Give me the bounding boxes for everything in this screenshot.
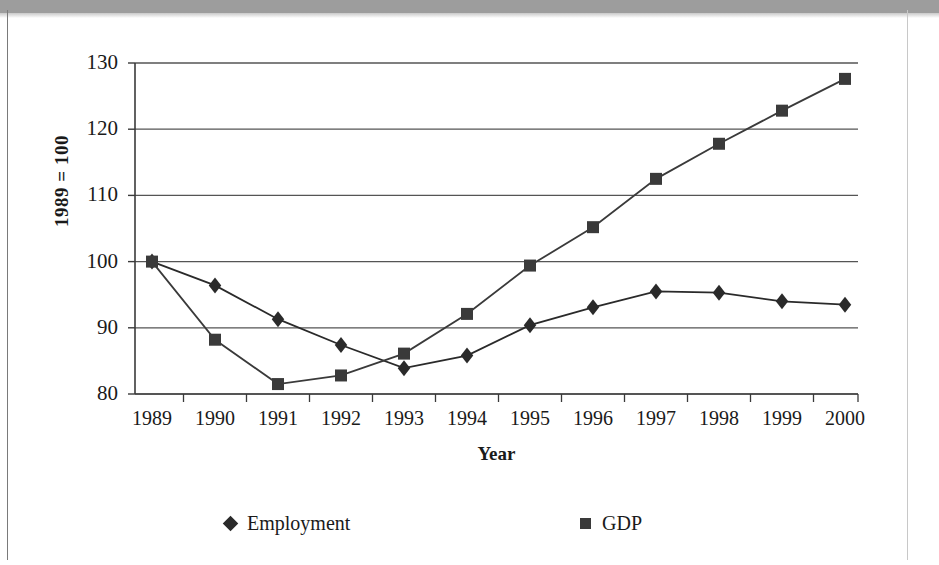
diamond-marker-icon — [223, 516, 239, 532]
y-tick-label: 130 — [62, 52, 118, 73]
x-tick-label: 1989 — [120, 408, 184, 428]
data-point-employment — [209, 277, 221, 293]
x-tick-label: 1990 — [183, 408, 247, 428]
y-tick-label: 100 — [62, 251, 118, 272]
series-line-employment — [152, 262, 845, 369]
data-point-employment — [839, 297, 851, 313]
data-point-employment — [335, 337, 347, 353]
data-point-employment — [398, 360, 410, 376]
y-tick-label: 120 — [62, 118, 118, 139]
x-tick-label: 1997 — [624, 408, 688, 428]
data-point-gdp — [713, 138, 725, 150]
data-point-employment — [524, 317, 536, 333]
y-tick-label: 110 — [62, 184, 118, 205]
x-tick-label: 1993 — [372, 408, 436, 428]
x-tick-label: 1994 — [435, 408, 499, 428]
data-point-gdp — [272, 378, 284, 390]
x-tick-label: 1992 — [309, 408, 373, 428]
x-tick-label: 1996 — [561, 408, 625, 428]
line-chart: 1989 = 100 Year 8090100110120130 1989199… — [0, 0, 939, 565]
y-tick-label: 90 — [62, 317, 118, 338]
legend-item-gdp[interactable]: GDP — [580, 512, 642, 535]
data-point-gdp — [587, 221, 599, 233]
data-point-gdp — [776, 105, 788, 117]
legend-item-employment[interactable]: Employment — [225, 512, 350, 535]
data-point-gdp — [524, 260, 536, 272]
data-point-employment — [650, 283, 662, 299]
x-tick-label: 1998 — [687, 408, 751, 428]
x-tick-label: 1995 — [498, 408, 562, 428]
data-point-employment — [461, 348, 473, 364]
data-point-gdp — [146, 256, 158, 268]
series-line-gdp — [152, 79, 845, 384]
chart-legend: EmploymentGDP — [135, 512, 858, 542]
data-point-gdp — [398, 348, 410, 360]
data-point-employment — [587, 299, 599, 315]
x-tick-label: 1999 — [750, 408, 814, 428]
x-tick-label: 2000 — [813, 408, 877, 428]
data-point-gdp — [335, 369, 347, 381]
data-point-employment — [713, 285, 725, 301]
page-canvas: 1989 = 100 Year 8090100110120130 1989199… — [0, 0, 939, 565]
data-point-gdp — [461, 308, 473, 320]
legend-label: Employment — [247, 512, 350, 535]
square-marker-icon — [580, 518, 591, 529]
legend-label: GDP — [602, 512, 642, 535]
data-point-employment — [272, 311, 284, 327]
y-tick-label: 80 — [62, 383, 118, 404]
x-tick-label: 1991 — [246, 408, 310, 428]
plot-area — [0, 0, 939, 565]
data-point-gdp — [839, 73, 851, 85]
data-point-gdp — [650, 173, 662, 185]
data-point-gdp — [209, 334, 221, 346]
data-point-employment — [776, 293, 788, 309]
